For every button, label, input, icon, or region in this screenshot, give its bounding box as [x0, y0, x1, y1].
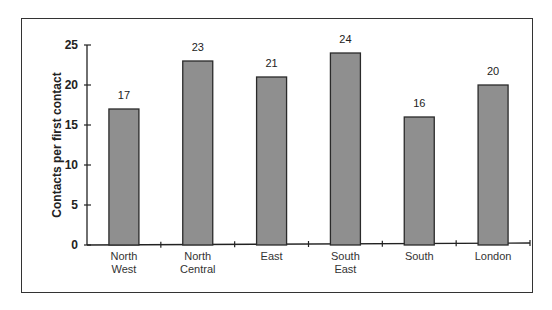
x-category-label: East [334, 263, 356, 275]
y-axis-label: Contacts per first contact [50, 72, 64, 217]
x-category-label: Central [180, 263, 215, 275]
data-label: 20 [487, 65, 499, 77]
x-category-label: West [111, 263, 136, 275]
x-category-label: South [405, 250, 434, 262]
y-tick-label: 5 [71, 198, 78, 212]
y-tick-label: 10 [65, 158, 79, 172]
y-tick-label: 25 [65, 38, 79, 52]
bar [257, 77, 287, 245]
data-label: 17 [118, 89, 130, 101]
x-category-label: East [261, 250, 283, 262]
bars: 17NorthWest23NorthCentral21East24SouthEa… [109, 33, 512, 275]
y-tick-label: 15 [65, 118, 79, 132]
x-category-label: South [331, 250, 360, 262]
bar [478, 85, 508, 245]
bar [404, 117, 434, 245]
bar [183, 61, 213, 245]
x-category-label: North [110, 250, 137, 262]
bar-chart: Contacts per first contact 0510152025 17… [0, 0, 552, 310]
x-category-label: London [475, 250, 512, 262]
data-label: 16 [413, 97, 425, 109]
bar [330, 53, 360, 245]
data-label: 21 [265, 57, 277, 69]
y-tick-label: 0 [71, 238, 78, 252]
x-category-label: North [184, 250, 211, 262]
y-tick-label: 20 [65, 78, 79, 92]
bar [109, 109, 139, 245]
data-label: 24 [339, 33, 351, 45]
data-label: 23 [192, 41, 204, 53]
